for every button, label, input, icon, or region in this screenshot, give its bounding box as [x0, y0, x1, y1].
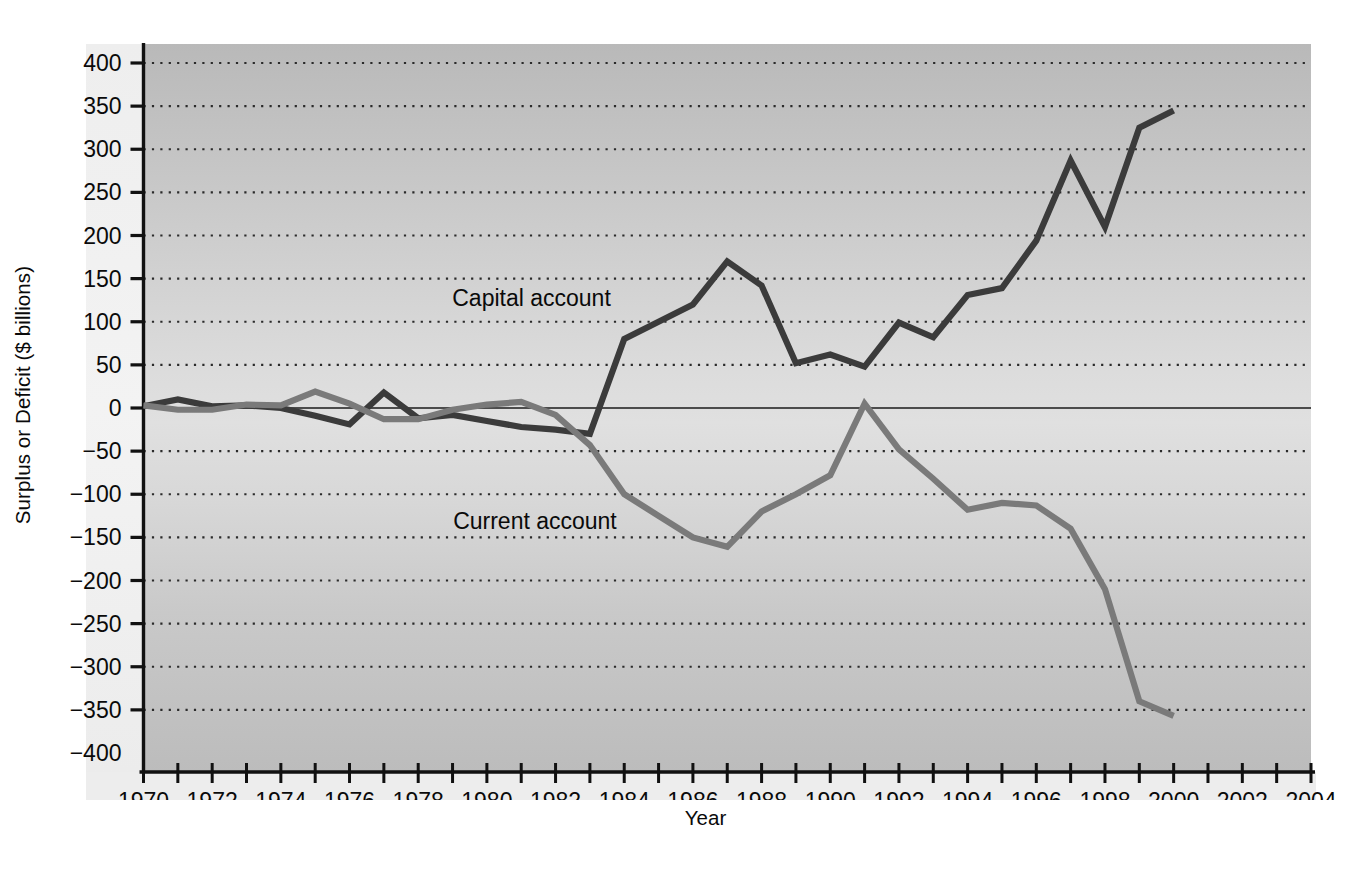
- svg-text:1972: 1972: [187, 788, 238, 800]
- svg-text:50: 50: [96, 352, 122, 378]
- svg-text:1990: 1990: [805, 788, 856, 800]
- svg-text:1994: 1994: [942, 788, 993, 800]
- svg-text:1986: 1986: [667, 788, 718, 800]
- x-axis-title: Year: [685, 806, 726, 829]
- series-annotation-2: Current account: [453, 508, 617, 534]
- svg-text:200: 200: [83, 223, 121, 249]
- svg-text:−100: −100: [70, 481, 122, 507]
- svg-text:1998: 1998: [1079, 788, 1130, 800]
- balance-of-payments-chart: Surplus or Deficit ($ billions): [0, 0, 1351, 869]
- svg-text:−50: −50: [82, 438, 121, 464]
- svg-text:2002: 2002: [1217, 788, 1268, 800]
- y-axis-title-container: Surplus or Deficit ($ billions): [0, 0, 46, 790]
- svg-text:1988: 1988: [736, 788, 787, 800]
- svg-text:1970: 1970: [118, 788, 169, 800]
- svg-text:100: 100: [83, 309, 121, 335]
- svg-text:−150: −150: [70, 524, 122, 550]
- svg-text:0: 0: [109, 395, 122, 421]
- svg-text:−350: −350: [70, 697, 122, 723]
- svg-text:350: 350: [83, 93, 121, 119]
- svg-text:1974: 1974: [255, 788, 306, 800]
- y-axis-title: Surplus or Deficit ($ billions): [11, 266, 35, 524]
- svg-text:−400: −400: [70, 740, 122, 766]
- svg-text:400: 400: [83, 50, 121, 76]
- svg-text:150: 150: [83, 266, 121, 292]
- svg-text:1976: 1976: [324, 788, 375, 800]
- svg-text:2004: 2004: [1285, 788, 1336, 800]
- svg-text:250: 250: [83, 179, 121, 205]
- svg-text:1996: 1996: [1011, 788, 1062, 800]
- x-axis-title-container: Year: [0, 806, 1351, 830]
- svg-text:−300: −300: [70, 654, 122, 680]
- series-annotation-1: Capital account: [452, 285, 611, 311]
- chart-plot-area: 400350300250200150100500−50−100−150−200−…: [0, 0, 1351, 800]
- svg-text:1982: 1982: [530, 788, 581, 800]
- svg-text:−250: −250: [70, 611, 122, 637]
- svg-text:1984: 1984: [599, 788, 650, 800]
- svg-text:−200: −200: [70, 568, 122, 594]
- svg-text:1978: 1978: [393, 788, 444, 800]
- svg-text:2000: 2000: [1148, 788, 1199, 800]
- svg-text:1992: 1992: [873, 788, 924, 800]
- svg-text:300: 300: [83, 136, 121, 162]
- svg-text:1980: 1980: [461, 788, 512, 800]
